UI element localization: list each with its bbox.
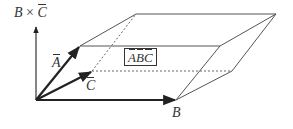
solid-edges — [80, 14, 276, 100]
vector-b-text: B — [172, 105, 181, 120]
vector-c-text: C — [86, 79, 95, 93]
edge-ab-abc — [220, 14, 276, 46]
edge-b-ab — [176, 46, 220, 100]
hidden-edges — [92, 14, 232, 71]
parallelepiped-diagram: B × C A C B ABC — [0, 0, 293, 129]
edge-b-bc — [176, 71, 232, 100]
triple-product-label: ABC — [124, 48, 157, 66]
triple-a: A — [128, 51, 136, 64]
vector-c-arrow — [36, 72, 91, 100]
edge-a-ac — [80, 14, 136, 46]
edge-bc-abc — [232, 14, 276, 71]
vector-a-label: A — [52, 56, 61, 70]
vector-c-label: C — [86, 79, 95, 93]
cross-right-operand: C — [37, 6, 46, 20]
cross-left-operand: B — [14, 5, 23, 20]
triple-c: C — [144, 51, 153, 64]
cross-operator: × — [26, 5, 34, 20]
cross-product-label: B × C — [14, 6, 47, 20]
vector-b-label: B — [172, 106, 181, 120]
vector-a-text: A — [52, 56, 61, 70]
triple-b: B — [136, 51, 144, 64]
